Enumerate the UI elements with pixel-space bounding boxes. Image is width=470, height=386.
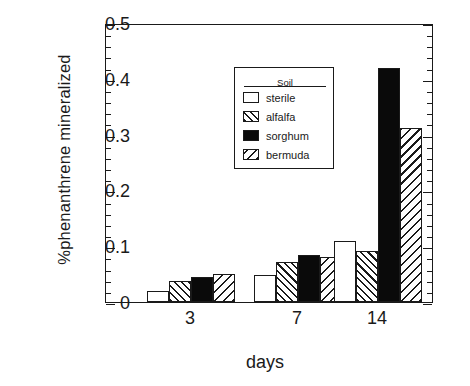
x-tick-label: 14 xyxy=(347,308,407,329)
legend-label: alfalfa xyxy=(266,111,295,123)
plot-area: Soil sterilealfalfasorghumbermuda xyxy=(105,24,433,303)
legend-swatch-sterile xyxy=(243,92,259,103)
y-tick-minor xyxy=(106,259,111,260)
y-tick-minor xyxy=(106,58,111,59)
y-tick-minor-right xyxy=(427,226,432,227)
y-tick-minor-right xyxy=(427,259,432,260)
y-tick-major-right xyxy=(423,137,432,138)
bar xyxy=(356,251,378,302)
y-tick-minor xyxy=(106,47,111,48)
y-tick-minor-right xyxy=(427,170,432,171)
y-tick-minor xyxy=(106,215,111,216)
bar xyxy=(169,281,191,302)
bar xyxy=(191,277,213,302)
y-tick-label: 0.5 xyxy=(70,14,130,35)
legend-swatch-bermuda xyxy=(243,149,259,160)
bar xyxy=(254,275,276,302)
legend-item-sorghum: sorghum xyxy=(243,128,309,143)
x-tick-label: 7 xyxy=(267,308,327,329)
legend-item-bermuda: bermuda xyxy=(243,147,309,162)
legend-swatch-sorghum xyxy=(243,130,259,141)
legend-item-sterile: sterile xyxy=(243,90,295,105)
legend-label: sterile xyxy=(266,92,295,104)
y-tick-minor xyxy=(106,103,111,104)
y-tick-label: 0.4 xyxy=(70,69,130,90)
y-tick-minor-right xyxy=(427,148,432,149)
y-tick-minor xyxy=(106,170,111,171)
y-tick-minor-right xyxy=(427,47,432,48)
y-tick-minor-right xyxy=(427,282,432,283)
y-tick-label: 0.3 xyxy=(70,125,130,146)
y-tick-minor xyxy=(106,282,111,283)
bar xyxy=(378,68,400,302)
legend-title-wrap: Soil xyxy=(245,72,325,90)
y-tick-minor-right xyxy=(427,70,432,71)
y-tick-minor xyxy=(106,271,111,272)
y-tick-minor-right xyxy=(427,36,432,37)
y-tick-minor xyxy=(106,159,111,160)
y-tick-minor xyxy=(106,36,111,37)
y-tick-minor-right xyxy=(427,58,432,59)
bar xyxy=(276,262,298,302)
y-tick-label: 0.1 xyxy=(70,237,130,258)
y-tick-minor xyxy=(106,114,111,115)
legend-label: bermuda xyxy=(266,149,309,161)
y-tick-minor-right xyxy=(427,271,432,272)
y-tick-minor-right xyxy=(427,159,432,160)
bar xyxy=(147,291,169,302)
y-tick-major-right xyxy=(423,25,432,26)
bar xyxy=(213,274,235,302)
x-axis-title: days xyxy=(100,352,430,373)
y-axis-title: %phenanthrene mineralized xyxy=(55,10,74,310)
y-tick-minor xyxy=(106,148,111,149)
y-tick-major-right xyxy=(423,304,432,305)
y-tick-minor-right xyxy=(427,125,432,126)
y-tick-minor-right xyxy=(427,293,432,294)
legend-divider xyxy=(244,86,326,87)
legend-swatch-alfalfa xyxy=(243,111,259,122)
y-tick-label: 0.2 xyxy=(70,181,130,202)
y-tick-label: 0 xyxy=(70,293,130,314)
y-tick-minor-right xyxy=(427,215,432,216)
y-tick-minor-right xyxy=(427,181,432,182)
bar-chart-figure: %phenanthrene mineralized Soil sterileal… xyxy=(0,0,470,386)
y-tick-minor-right xyxy=(427,237,432,238)
legend-title: Soil xyxy=(277,77,293,89)
legend: Soil sterilealfalfasorghumbermuda xyxy=(234,67,334,169)
y-tick-minor xyxy=(106,92,111,93)
y-tick-major-right xyxy=(423,81,432,82)
y-tick-minor xyxy=(106,204,111,205)
bar xyxy=(334,241,356,302)
legend-label: sorghum xyxy=(266,130,309,142)
y-tick-minor-right xyxy=(427,204,432,205)
y-tick-major-right xyxy=(423,248,432,249)
legend-item-alfalfa: alfalfa xyxy=(243,109,295,124)
x-tick-label: 3 xyxy=(160,308,220,329)
y-tick-minor-right xyxy=(427,92,432,93)
bar xyxy=(298,255,320,302)
y-tick-minor-right xyxy=(427,103,432,104)
y-tick-major-right xyxy=(423,192,432,193)
bar xyxy=(400,128,422,302)
y-tick-minor-right xyxy=(427,114,432,115)
y-tick-minor xyxy=(106,226,111,227)
